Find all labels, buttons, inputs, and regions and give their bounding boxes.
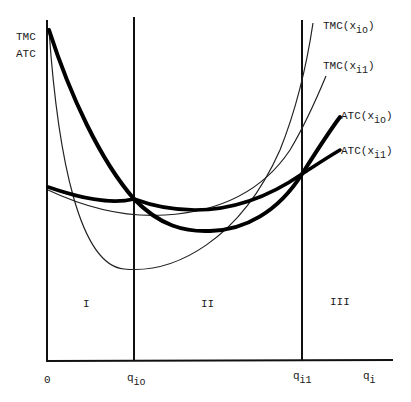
marker-sub: io	[134, 377, 146, 388]
region-label-3: III	[330, 296, 350, 308]
label-prefix: ATC(x	[341, 110, 374, 122]
label-sub: i1	[356, 65, 368, 76]
curve-tmc-xio	[49, 23, 313, 269]
label-suffix: )	[368, 60, 375, 72]
label-atc-xio: ATC(xio)	[341, 110, 393, 122]
axis-main: q	[363, 370, 370, 382]
marker-sub: i1	[300, 375, 312, 386]
label-sub: io	[356, 25, 368, 36]
y-axis-label-tmc: TMC	[16, 31, 36, 43]
label-prefix: TMC(x	[323, 20, 356, 32]
label-tmc-xi1: TMC(xi1)	[323, 60, 375, 72]
x-marker-q-io: qio	[127, 372, 146, 384]
label-suffix: )	[386, 145, 393, 157]
label-prefix: TMC(x	[323, 60, 356, 72]
origin-label: 0	[44, 374, 51, 386]
x-axis-label: qi	[363, 370, 376, 382]
label-sub: i1	[374, 150, 386, 161]
label-prefix: ATC(x	[341, 145, 374, 157]
region-label-2: II	[201, 298, 214, 310]
x-marker-q-i1: qi1	[293, 370, 312, 382]
label-sub: io	[374, 115, 386, 126]
y-axis-label-atc: ATC	[16, 48, 36, 60]
label-suffix: )	[368, 20, 375, 32]
axis-sub: i	[370, 375, 376, 386]
region-label-1: I	[83, 298, 90, 310]
marker-main: q	[293, 370, 300, 382]
marker-main: q	[127, 372, 134, 384]
x-axis	[46, 360, 393, 361]
label-atc-xi1: ATC(xi1)	[341, 145, 393, 157]
curve-atc-xio	[49, 30, 340, 231]
label-suffix: )	[386, 110, 393, 122]
label-tmc-xio: TMC(xio)	[323, 20, 375, 32]
